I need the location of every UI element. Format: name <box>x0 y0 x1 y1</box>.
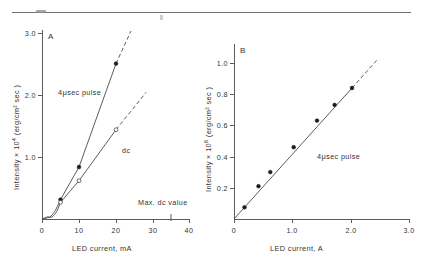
panel-a-pulse-curve <box>42 64 116 219</box>
panel-a: A 3.0 2.0 1.0 0 10 20 30 40 LED current,… <box>0 0 212 273</box>
panel-a-pulse-label-suffix: sec pulse <box>67 88 101 97</box>
panel-a-dc-point <box>114 128 118 132</box>
panel-b-pulse-label-suffix: sec pulse <box>326 152 360 161</box>
figure-canvas: A 3.0 2.0 1.0 0 10 20 30 40 LED current,… <box>0 0 423 273</box>
panel-a-dc-curve <box>42 130 116 219</box>
panel-b-plot-area <box>212 0 423 273</box>
panel-b-y-axis-title-exp: 6 <box>203 140 209 143</box>
panel-b-pulse-point <box>292 145 296 149</box>
panel-b-pulse-point <box>257 184 261 188</box>
panel-b-pulse-extrapolation <box>352 60 377 88</box>
panel-a-plot-area <box>0 0 212 273</box>
panel-a-max-dc-annotation: Max. dc value <box>138 198 188 207</box>
panel-a-pulse-point <box>77 165 81 169</box>
panel-a-dc-point <box>77 179 81 183</box>
panel-a-series-label-pulse: 4μsec pulse <box>58 88 101 97</box>
panel-b: B 0.2 0.4 0.6 0.8 1.0 0 1.0 2.0 3.0 LED … <box>212 0 423 273</box>
panel-a-pulse-extrapolation <box>116 31 131 64</box>
panel-a-dc-extrapolation <box>116 93 146 130</box>
panel-a-dc-point <box>59 200 63 204</box>
panel-b-pulse-point <box>243 205 247 209</box>
panel-b-pulse-point <box>268 170 272 174</box>
panel-a-series-label-dc: dc <box>122 146 130 155</box>
panel-a-pulse-point <box>114 62 118 66</box>
panel-b-pulse-point <box>333 103 337 107</box>
panel-b-pulse-point <box>315 119 319 123</box>
panel-b-series-label-pulse: 4μsec pulse <box>317 152 360 161</box>
panel-b-pulse-point <box>350 86 354 90</box>
